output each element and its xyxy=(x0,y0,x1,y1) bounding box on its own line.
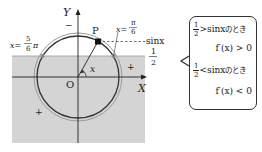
note-line-4: f′(x) < 0 xyxy=(216,87,252,96)
half-denominator: 2 xyxy=(151,58,156,67)
y-axis-arrow-icon xyxy=(76,9,81,15)
pi6-leader xyxy=(114,32,119,56)
sinx-label: sinx xyxy=(146,36,164,46)
sign-minus-top: − xyxy=(65,20,73,30)
callout-pointer xyxy=(181,56,189,66)
point-5pi-6 xyxy=(41,54,45,58)
note-line-3: 12<sinxのとき xyxy=(193,62,246,79)
note-line-2: f′(x) > 0 xyxy=(216,44,252,53)
pi6-num: π xyxy=(131,19,136,27)
pi6-prefix: x= xyxy=(116,25,127,34)
5pi6-den: 6 xyxy=(26,45,31,53)
sign-plus-left: + xyxy=(35,107,43,117)
note-line-1: 12>sinxのとき xyxy=(193,21,246,38)
5pi6-num: 5 xyxy=(26,35,30,43)
origin-label: O xyxy=(66,79,74,90)
condition-callout: 12>sinxのとき f′(x) > 0 12<sinxのとき f′(x) < … xyxy=(189,16,257,110)
half-numerator: 1 xyxy=(151,47,156,56)
point-p-label: P xyxy=(92,25,99,36)
pi6-den: 6 xyxy=(131,28,136,36)
sign-plus-right: + xyxy=(127,62,135,72)
y-axis-label: Y xyxy=(63,6,72,19)
shaded-region xyxy=(12,56,145,143)
angle-label: x xyxy=(90,64,95,74)
point-p xyxy=(95,39,101,45)
5pi6-prefix: x= xyxy=(10,41,21,50)
x-axis-label: X xyxy=(137,82,147,95)
5pi6-suffix: π xyxy=(32,41,39,50)
